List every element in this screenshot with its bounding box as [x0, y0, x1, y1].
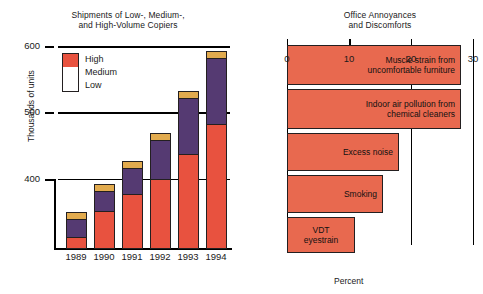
bar-1991-low: [122, 194, 143, 249]
bar-1994-high: [206, 51, 227, 59]
legend-swatch-low: [63, 54, 78, 67]
bar-1992-low: [150, 179, 171, 249]
bar-1992-high: [150, 133, 171, 141]
ytick-mark-400: [45, 179, 54, 181]
right-chart-title: Office Annoyances and Discomforts: [320, 10, 440, 30]
bar-1990-high: [94, 184, 115, 192]
bar-1989-low: [66, 237, 87, 249]
xtick-label-10: 10: [336, 53, 362, 64]
hbar-excess-noise[interactable]: Excess noise: [287, 133, 399, 171]
bar-1990-low: [94, 211, 115, 249]
bar-1992-medium: [150, 140, 171, 180]
hbar-label-vdt-eyestrain: VDT eyestrain: [304, 225, 339, 245]
copier-shipments-chart: Shipments of Low-, Medium-, and High-Vol…: [0, 0, 248, 294]
bar-1993-medium: [178, 98, 199, 155]
office-annoyances-chart: Office Annoyances and Discomforts Muscle…: [248, 0, 483, 294]
legend-swatch-stack: [62, 53, 79, 92]
hbar-vdt-eyestrain[interactable]: VDT eyestrain: [287, 217, 355, 253]
bar-1994-medium: [206, 58, 227, 125]
ytick-label-600: 600: [12, 40, 40, 51]
hbar-label-indoor-air-pollution: Indoor air pollution from chemical clean…: [366, 99, 455, 119]
left-chart-title: Shipments of Low-, Medium-, and High-Vol…: [44, 10, 212, 30]
bar-1993-low: [178, 154, 199, 249]
legend-label-high: High: [85, 53, 104, 66]
hbar-muscle-strain[interactable]: Muscle strain from uncomfortable furnitu…: [287, 45, 461, 85]
hbar-smoking[interactable]: Smoking: [287, 175, 383, 213]
left-plot-area: Thousands of units 600 500 400 Hig: [58, 46, 230, 249]
gridline-400: [58, 179, 230, 180]
two-chart-figure: Shipments of Low-, Medium-, and High-Vol…: [0, 0, 483, 294]
xtick-label-0: 0: [274, 53, 300, 64]
right-plot-area: Muscle strain from uncomfortable furnitu…: [287, 45, 473, 245]
ytick-mark-500: [45, 112, 54, 114]
bar-1994-low: [206, 124, 227, 249]
xtick-label-20: 20: [398, 53, 424, 64]
gridline-600: [58, 46, 230, 48]
bar-1989-medium: [66, 219, 87, 238]
ytick-label-500: 500: [12, 106, 40, 117]
legend-label-low: Low: [85, 79, 102, 92]
bar-1990-medium: [94, 191, 115, 212]
axis-line-30: [473, 39, 474, 245]
hbar-indoor-air-pollution[interactable]: Indoor air pollution from chemical clean…: [287, 89, 461, 129]
bar-1991-medium: [122, 168, 143, 195]
bar-1993-high: [178, 91, 199, 99]
ytick-label-400: 400: [12, 173, 40, 184]
gridline-500: [58, 112, 230, 114]
legend: High Medium Low: [62, 53, 132, 93]
hbar-label-smoking: Smoking: [344, 189, 377, 199]
x-axis-title-percent: Percent: [334, 276, 363, 286]
ytick-mark-600: [45, 46, 54, 48]
xtick-label-1994: 1994: [199, 251, 233, 262]
legend-label-medium: Medium: [85, 66, 117, 79]
bar-1989-high: [66, 212, 87, 220]
y-axis-line: [54, 179, 56, 249]
bar-1991-high: [122, 161, 143, 169]
hbar-label-excess-noise: Excess noise: [343, 147, 393, 157]
xtick-label-30: 30: [460, 53, 483, 64]
